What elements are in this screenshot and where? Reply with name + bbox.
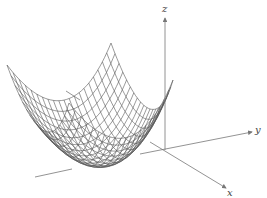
z-axis-label: z bbox=[161, 3, 168, 14]
mesh-line bbox=[15, 63, 119, 121]
axes: z y x bbox=[35, 3, 261, 198]
mesh-line bbox=[7, 43, 111, 101]
x-axis bbox=[150, 142, 226, 188]
mesh-line bbox=[11, 54, 115, 112]
paraboloid-surface bbox=[7, 43, 173, 168]
y-axis bbox=[140, 132, 252, 154]
mesh-line bbox=[52, 109, 156, 167]
y-axis-label: y bbox=[254, 124, 261, 135]
y-axis-negative bbox=[35, 169, 72, 177]
paraboloid-diagram: z y x bbox=[0, 0, 267, 198]
x-axis-label: x bbox=[227, 187, 233, 198]
mesh-line bbox=[46, 109, 150, 167]
mesh-line bbox=[26, 87, 130, 145]
mesh-line bbox=[111, 43, 173, 109]
mesh-line bbox=[7, 65, 69, 132]
